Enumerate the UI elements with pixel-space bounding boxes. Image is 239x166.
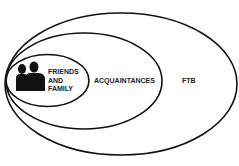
friends-and-family-label: FRIENDS AND FAMILY — [48, 68, 79, 94]
ftb-label: FTB — [182, 77, 196, 86]
label-line: FRIENDS — [48, 68, 79, 77]
label-line: FAMILY — [48, 85, 79, 94]
acquaintances-label: ACQUAINTANCES — [94, 77, 155, 86]
people-silhouette-icon — [16, 62, 45, 92]
label-line: AND — [48, 77, 79, 86]
